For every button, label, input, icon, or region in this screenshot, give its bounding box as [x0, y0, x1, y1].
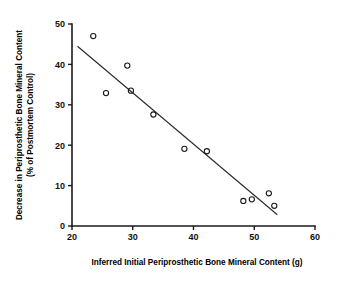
x-axis-tick-label: 50	[249, 232, 259, 242]
data-point-marker	[125, 63, 130, 68]
y-axis-tick-label: 30	[55, 100, 65, 110]
x-axis-tick-label: 30	[128, 232, 138, 242]
y-axis-tick-label: 20	[55, 141, 65, 151]
x-axis-tick-label: 40	[188, 232, 198, 242]
y-axis-tick-label: 0	[60, 221, 65, 231]
y-axis-ticks: 01020304050	[55, 19, 72, 231]
data-point-marker	[151, 112, 156, 117]
x-axis-tick-label: 60	[310, 232, 320, 242]
x-axis-ticks: 2030405060	[67, 226, 320, 242]
data-point-marker	[249, 197, 254, 202]
y-axis-tick-label: 10	[55, 181, 65, 191]
y-axis-title-line-2: (% of Postmortem Control)	[26, 73, 35, 177]
data-point-marker	[266, 191, 271, 196]
data-point-marker	[204, 149, 209, 154]
x-axis-tick-label: 20	[67, 232, 77, 242]
y-axis-title-line-1: Decrease in Periprosthetic Bone Mineral …	[15, 30, 24, 220]
plot-axes	[72, 24, 315, 226]
plot-canvas: 01020304050 2030405060 Inferred Initial …	[0, 0, 343, 282]
scatter-plot-figure: 01020304050 2030405060 Inferred Initial …	[0, 0, 343, 282]
data-point-marker	[103, 90, 108, 95]
data-point-marker	[272, 203, 277, 208]
data-points	[91, 34, 277, 209]
regression-line	[77, 46, 277, 214]
data-point-marker	[182, 146, 187, 151]
y-axis-tick-label: 40	[55, 60, 65, 70]
x-axis-title: Inferred Initial Periprosthetic Bone Min…	[91, 258, 302, 267]
regression-line-segment	[77, 46, 277, 214]
y-axis-tick-label: 50	[55, 19, 65, 29]
y-axis-title: Decrease in Periprosthetic Bone Mineral …	[15, 30, 35, 220]
data-point-marker	[241, 198, 246, 203]
data-point-marker	[91, 34, 96, 39]
